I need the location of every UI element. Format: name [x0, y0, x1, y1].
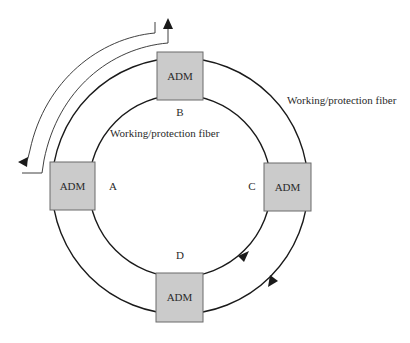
adm-node-b[interactable]: ADM [157, 52, 203, 100]
adm-label-d: ADM [167, 291, 193, 303]
adm-node-a[interactable]: ADM [50, 162, 95, 210]
fiber-label-inner: Working/protection fiber [110, 127, 220, 139]
site-label-a: A [109, 180, 117, 192]
site-label-c: C [248, 180, 255, 192]
ring-diagram: ADM B ADM A ADM C ADM D Working/protecti… [0, 0, 410, 343]
site-label-d: D [176, 249, 184, 261]
site-label-b: B [176, 106, 183, 118]
fiber-label-outer: Working/protection fiber [287, 94, 397, 106]
loopback-route-outer [26, 22, 155, 162]
inner-ring-direction-arrow-icon [238, 251, 249, 262]
arrow-left-icon [18, 157, 28, 167]
loopback-route-inner [22, 28, 168, 173]
adm-label-b: ADM [167, 70, 193, 82]
adm-label-c: ADM [275, 181, 301, 193]
adm-node-c[interactable]: ADM [264, 163, 311, 211]
adm-label-a: ADM [60, 180, 86, 192]
arrow-up-icon [163, 18, 173, 29]
adm-node-d[interactable]: ADM [156, 273, 203, 322]
